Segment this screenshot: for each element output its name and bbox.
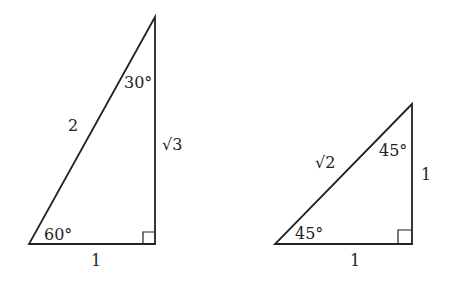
- base-label: 1: [350, 251, 360, 270]
- bottom-angle-label: 45°: [295, 224, 323, 243]
- special-right-triangles-diagram: 30° 2 √3 60° 1 45° √2 1 45° 1: [0, 0, 458, 293]
- triangle-30-60-90: 30° 2 √3 60° 1: [29, 17, 182, 270]
- vertical-leg-label: 1: [421, 165, 431, 184]
- hypotenuse-label: √2: [315, 153, 335, 172]
- triangle-45-45-90: 45° √2 1 45° 1: [275, 104, 431, 270]
- base-label: 1: [91, 251, 101, 270]
- top-angle-label: 30°: [124, 73, 152, 92]
- top-angle-label: 45°: [379, 141, 407, 160]
- bottom-angle-label: 60°: [44, 225, 72, 244]
- right-angle-marker: [143, 232, 155, 244]
- triangle-outline: [29, 17, 155, 244]
- triangle-outline: [275, 104, 412, 244]
- hypotenuse-label: 2: [68, 116, 78, 135]
- vertical-leg-label: √3: [162, 135, 182, 154]
- right-angle-marker: [398, 230, 412, 244]
